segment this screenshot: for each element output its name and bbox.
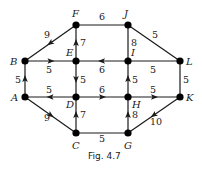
figure-caption: Fig. 4.7	[88, 151, 121, 161]
edge-weight-label: 5	[132, 74, 138, 85]
node-label: C	[72, 140, 80, 151]
node-L	[176, 57, 183, 64]
edge-weight-label: 5	[46, 64, 52, 75]
edge-weight-label: 7	[80, 109, 86, 120]
node-K	[176, 93, 183, 100]
node-label: J	[122, 8, 129, 19]
edge-weight-label: 10	[150, 116, 162, 127]
node-label: E	[65, 47, 74, 58]
node-label: B	[9, 56, 17, 67]
node-label: D	[65, 99, 74, 110]
labels-layer: 965785655555565978105ABCDEFGHIJKL	[9, 8, 194, 151]
node-label: F	[71, 8, 80, 19]
node-label: L	[185, 56, 193, 67]
node-F	[72, 21, 79, 28]
node-G	[124, 129, 131, 136]
edge-weight-label: 8	[132, 109, 138, 120]
edge-weight-label: 5	[152, 29, 158, 40]
node-H	[124, 93, 131, 100]
edge-weight-label: 5	[80, 74, 86, 85]
node-label: I	[130, 47, 136, 58]
edge-weight-label: 5	[150, 64, 156, 75]
edge-weight-label: 5	[99, 133, 105, 144]
edge-weight-label: 9	[44, 29, 50, 40]
graph-figure: 965785655555565978105ABCDEFGHIJKL Fig. 4…	[0, 0, 202, 170]
node-A	[21, 93, 28, 100]
node-label: H	[131, 99, 141, 110]
edge-weight-label: 5	[150, 84, 156, 95]
edge-weight-label: 6	[99, 84, 105, 95]
arrowhead-icon	[46, 39, 55, 48]
node-J	[124, 21, 131, 28]
edge-weight-label: 5	[15, 74, 21, 85]
node-label: A	[10, 92, 18, 103]
node-I	[124, 57, 131, 64]
edge-weight-label: 6	[99, 11, 105, 22]
node-C	[72, 129, 79, 136]
node-label: G	[124, 140, 132, 151]
node-E	[72, 57, 79, 64]
edge-weight-label: 5	[46, 84, 52, 95]
node-B	[21, 57, 28, 64]
edge-weight-label: 6	[99, 64, 105, 75]
edge-weight-label: 9	[44, 112, 50, 123]
edge-weight-label: 5	[183, 74, 189, 85]
edge-weight-label: 7	[80, 37, 86, 48]
node-label: K	[185, 92, 194, 103]
